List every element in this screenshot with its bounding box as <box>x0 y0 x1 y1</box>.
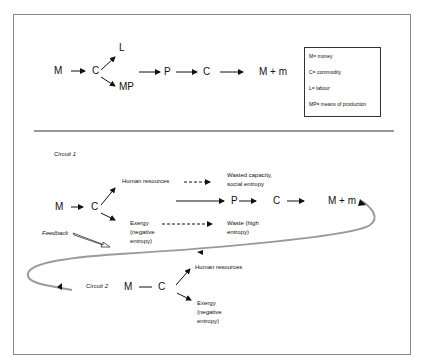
c1-node-p: P <box>231 195 238 207</box>
c1-node-result: M + m <box>328 195 356 207</box>
c1-exergy-3: entropy) <box>130 238 152 245</box>
feedback-label: Feedback <box>42 230 68 237</box>
c1-wasted-2: social entropy <box>227 181 264 188</box>
arrow-c-l <box>101 57 115 70</box>
feedback-arrow-icon <box>73 233 110 247</box>
node-l: L <box>119 42 125 54</box>
feedback-curve <box>28 201 375 290</box>
curve-arrowhead-bottom <box>57 283 62 290</box>
arrow-c-mp <box>101 77 115 86</box>
node-c: C <box>92 65 99 77</box>
c1-wasted-1: Wasted capacity, <box>227 172 272 179</box>
node-c2: C <box>203 66 210 78</box>
c1-node-m: M <box>55 201 63 213</box>
node-mp: MP <box>119 81 134 93</box>
curve-arrowhead-mid <box>197 250 203 255</box>
c1-human-resources: Human resources <box>122 178 169 185</box>
c2-exergy-2: (negative <box>197 309 222 316</box>
node-p: P <box>164 66 171 78</box>
legend-item: MP= means of production <box>309 101 376 107</box>
node-result: M + m <box>259 66 287 78</box>
c1-arrow-c-exergy <box>101 213 115 220</box>
c1-exergy-2: (negative <box>130 229 155 236</box>
c2-node-c: C <box>158 281 165 293</box>
legend-item: M= money <box>309 53 376 59</box>
c2-arrow-c-exergy <box>177 293 191 300</box>
c2-exergy-3: entropy) <box>197 318 219 325</box>
c2-arrow-c-hr <box>176 269 190 285</box>
c1-arrow-c-hr <box>101 188 115 205</box>
c1-exergy-1: Exergy <box>130 220 149 227</box>
node-m: M <box>54 65 62 77</box>
circuit1-label: Circuit 1 <box>54 151 76 158</box>
c1-waste-1: Waste (high <box>227 220 259 227</box>
c1-node-c2: C <box>273 195 280 207</box>
c2-exergy-1: Exergy <box>197 300 216 307</box>
legend-item: C= commodity <box>309 69 376 75</box>
c2-human-resources: Human resources <box>195 264 242 271</box>
c2-node-m: M <box>124 281 132 293</box>
c1-waste-2: entropy) <box>227 229 249 236</box>
circuit2-label: Circuit 2 <box>86 283 108 290</box>
legend-box: M= money C= commodity L= labour MP= mean… <box>304 47 381 117</box>
legend-item: L= labour <box>309 85 376 91</box>
c1-node-c: C <box>91 201 98 213</box>
